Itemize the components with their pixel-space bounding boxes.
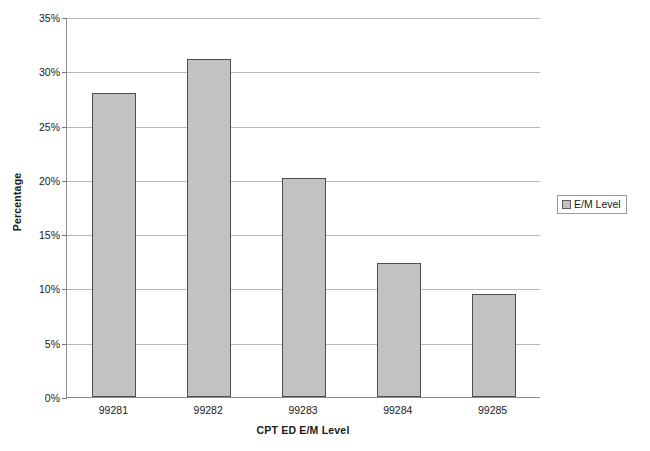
bar — [377, 263, 421, 397]
x-tick-label: 99285 — [453, 404, 533, 416]
bars-layer — [67, 18, 540, 397]
bar — [187, 59, 231, 397]
y-tick-label: 30% — [22, 67, 60, 77]
legend: E/M Level — [557, 195, 627, 214]
y-tick-label: 20% — [22, 176, 60, 186]
x-tick-label: 99282 — [168, 404, 248, 416]
x-tick-label: 99283 — [263, 404, 343, 416]
y-tick-label: 25% — [22, 122, 60, 132]
x-tick-label: 99284 — [358, 404, 438, 416]
bar — [282, 178, 326, 397]
bar-chart: Percentage 35% 30% 25% 20% 15% 10% 5% 0%… — [0, 0, 650, 451]
x-axis-title: CPT ED E/M Level — [66, 424, 540, 436]
legend-swatch-icon — [562, 200, 571, 209]
y-axis-tick-labels: 35% 30% 25% 20% 15% 10% 5% 0% — [22, 0, 60, 451]
legend-label: E/M Level — [574, 199, 621, 210]
y-tick-label: 35% — [22, 13, 60, 23]
plot-area — [66, 18, 540, 398]
y-axis-tickmark — [62, 398, 67, 399]
bar — [92, 93, 136, 397]
y-tick-label: 5% — [22, 339, 60, 349]
x-tick-label: 99281 — [73, 404, 153, 416]
y-tick-label: 10% — [22, 284, 60, 294]
y-tick-label: 15% — [22, 230, 60, 240]
bar — [472, 294, 516, 397]
y-tick-label: 0% — [22, 393, 60, 403]
